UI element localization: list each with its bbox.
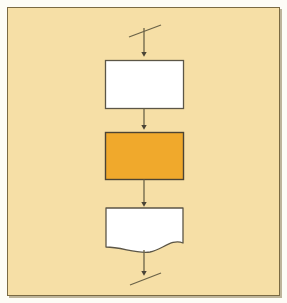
node-process-c[interactable] [106, 133, 184, 180]
flow-break-slash-icon [130, 273, 161, 285]
node-output-c[interactable] [106, 208, 183, 252]
flow-break-slash-icon [129, 25, 161, 37]
connector-exit-break [130, 250, 161, 285]
process-b-shape[interactable] [106, 61, 184, 109]
output-c-document-shape[interactable] [106, 208, 183, 252]
node-process-b[interactable] [106, 61, 184, 109]
process-c-shape[interactable] [106, 133, 184, 180]
connector-entry-break [129, 25, 161, 52]
flowchart-diagram [0, 0, 287, 303]
figure-root: B=16 C=SQR(B) C 110 120 130 [0, 0, 287, 303]
